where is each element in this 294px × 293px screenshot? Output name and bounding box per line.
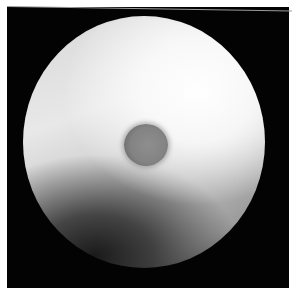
- spherical-object: [124, 124, 168, 166]
